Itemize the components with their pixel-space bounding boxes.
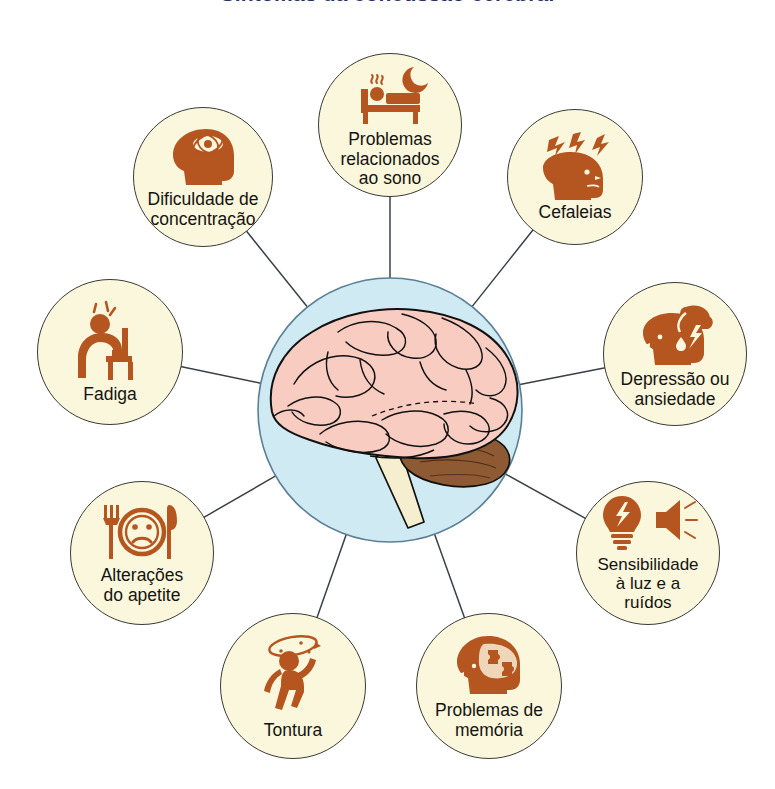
symptom-label: Tontura [258,721,328,741]
symptom-label: Problemas relacionados ao sono [334,130,445,189]
symptom-bubble-sono[interactable]: Problemas relacionados ao sono [318,53,462,197]
symptom-bubble-apetite[interactable]: Alterações do apetite [70,481,214,625]
symptom-label: Fadiga [77,385,143,405]
bed-moon-icon [344,61,436,127]
symptom-label: Depressão ou ansiedade [615,370,736,409]
symptom-bubble-sensibilidade[interactable]: Sensibilidade à luz e a ruídos [576,481,720,625]
symptom-bubble-cefaleias[interactable]: Cefaleias [507,109,643,245]
symptom-label: Problemas de memória [429,701,549,740]
bulb-speaker-icon [598,494,698,552]
symptom-bubble-tontura[interactable]: Tontura [220,613,366,759]
symptom-label: Alterações do apetite [95,566,190,605]
plate-sad-face-icon [95,501,189,563]
head-swirl-icon [164,125,242,187]
tired-person-chair-icon [72,300,148,382]
infographic-root: Sintomas da concussão cerebral [0,0,775,789]
head-storm-cloud-icon [634,299,716,367]
symptom-bubble-memoria[interactable]: Problemas de memória [416,613,562,759]
symptom-bubble-fadiga[interactable]: Fadiga [37,279,183,425]
head-puzzle-icon [448,632,530,698]
symptom-label: Dificuldade de concentração [142,190,265,229]
symptom-label: Cefaleias [533,203,618,223]
symptom-bubble-depressao[interactable]: Depressão ou ansiedade [603,282,747,426]
symptom-label: Sensibilidade à luz e a ruídos [591,555,704,612]
dizzy-person-icon [251,632,335,718]
head-lightning-icon [535,132,615,200]
symptom-bubble-concentracao[interactable]: Dificuldade de concentração [133,107,273,247]
